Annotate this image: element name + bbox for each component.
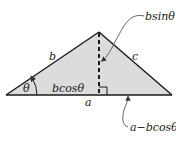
- label-angle-theta: θ: [23, 82, 30, 95]
- label-side-b: b: [49, 50, 56, 63]
- label-height: bsinθ: [145, 10, 175, 23]
- label-side-c: c: [132, 50, 138, 63]
- label-adjacent: bcosθ: [52, 82, 84, 95]
- label-side-a: a: [85, 96, 92, 109]
- remainder-callout-arrow: [123, 98, 128, 127]
- triangle-shape: [6, 32, 172, 95]
- triangle-diagram: b c a θ bcosθ bsinθ a−bcosθ: [0, 0, 176, 147]
- label-remainder: a−bcosθ: [130, 121, 176, 134]
